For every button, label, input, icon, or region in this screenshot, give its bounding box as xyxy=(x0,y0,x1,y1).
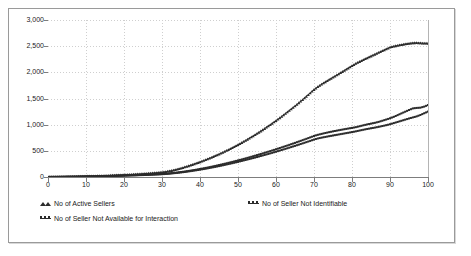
x-tick-label: 90 xyxy=(370,181,410,189)
plot-area xyxy=(48,20,428,177)
x-tick-label: 20 xyxy=(104,181,144,189)
x-tick-mark xyxy=(124,178,125,182)
x-tick-label: 60 xyxy=(256,181,296,189)
y-tick-mark xyxy=(44,72,48,73)
x-tick-mark xyxy=(162,178,163,182)
y-tick-label: 0 xyxy=(4,173,44,181)
y-tick-label: 1,500 xyxy=(4,95,44,103)
y-tick-mark xyxy=(44,20,48,21)
y-tick-label: 2,500 xyxy=(4,42,44,50)
y-tick-mark xyxy=(44,99,48,100)
legend-label: No of Active Sellers xyxy=(54,199,115,208)
legend-item-1[interactable]: No of Seller Not Identifiable xyxy=(248,199,347,208)
x-tick-mark xyxy=(314,178,315,182)
gridlines xyxy=(48,20,428,177)
y-tick-mark xyxy=(44,46,48,47)
x-tick-label: 30 xyxy=(142,181,182,189)
x-tick-mark xyxy=(276,178,277,182)
x-tick-label: 80 xyxy=(332,181,372,189)
y-tick-label: 3,000 xyxy=(4,16,44,24)
x-tick-mark xyxy=(238,178,239,182)
x-tick-label: 100 xyxy=(408,181,448,189)
chart-legend: No of Active SellersNo of Seller Not Ide… xyxy=(40,199,440,235)
y-tick-label: 500 xyxy=(4,147,44,155)
triangle-marker-icon xyxy=(40,200,51,207)
x-tick-mark xyxy=(352,178,353,182)
x-tick-label: 10 xyxy=(66,181,106,189)
y-tick-mark xyxy=(44,151,48,152)
x-tick-mark xyxy=(390,178,391,182)
x-tick-mark xyxy=(48,178,49,182)
x-tick-mark xyxy=(86,178,87,182)
y-tick-mark xyxy=(44,125,48,126)
legend-label: No of Seller Not Identifiable xyxy=(262,199,347,208)
series-0 xyxy=(48,41,428,177)
x-tick-label: 70 xyxy=(294,181,334,189)
cross-marker-icon xyxy=(40,215,51,222)
cross-marker-icon xyxy=(248,200,259,207)
y-axis-tick-labels: 05001,0001,5002,0002,5003,000 xyxy=(0,0,44,256)
plot-right-border xyxy=(428,20,429,178)
y-tick-label: 1,000 xyxy=(4,121,44,129)
chart-canvas xyxy=(48,20,428,177)
x-tick-label: 40 xyxy=(180,181,220,189)
x-tick-label: 50 xyxy=(218,181,258,189)
x-tick-label: 0 xyxy=(28,181,68,189)
legend-item-0[interactable]: No of Active Sellers xyxy=(40,199,115,208)
x-tick-mark xyxy=(200,178,201,182)
x-tick-mark xyxy=(428,178,429,182)
y-tick-label: 2,000 xyxy=(4,68,44,76)
chart-figure: 05001,0001,5002,0002,5003,000 No of Acti… xyxy=(0,0,471,256)
legend-item-2[interactable]: No of Seller Not Available for Interacti… xyxy=(40,214,178,223)
legend-label: No of Seller Not Available for Interacti… xyxy=(54,214,178,223)
